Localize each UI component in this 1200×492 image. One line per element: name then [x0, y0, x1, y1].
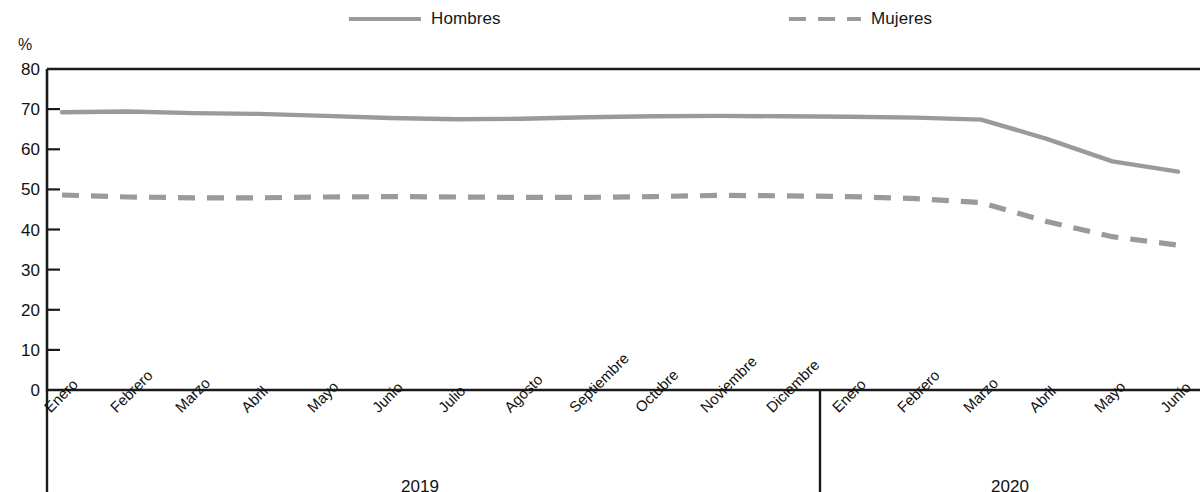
year-label-2020: 2020 [991, 477, 1029, 492]
plot-area [0, 0, 1200, 492]
year-label-2019: 2019 [401, 477, 439, 492]
y-axis-ticks [47, 109, 60, 350]
series-group [62, 112, 1178, 246]
chart-figure: Hombres Mujeres % 80 70 60 50 40 30 20 1… [0, 0, 1200, 492]
series-line-mujeres [62, 195, 1178, 245]
series-line-hombres [62, 112, 1178, 172]
